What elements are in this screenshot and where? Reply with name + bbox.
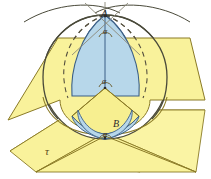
figure-canvas: A B α α α τ xyxy=(0,0,211,179)
label-angle-bottom: α xyxy=(103,131,107,139)
label-plane-tau: τ xyxy=(45,146,49,157)
label-pole-a: A xyxy=(101,8,108,19)
label-angle-top: α xyxy=(103,28,107,36)
label-pole-b: B xyxy=(113,119,119,129)
center-dot xyxy=(104,87,107,90)
label-angle-center: α xyxy=(102,78,106,86)
